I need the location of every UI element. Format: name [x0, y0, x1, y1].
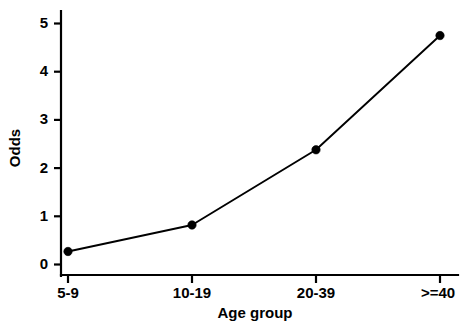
x-tick-label-5-9: 5-9 — [57, 284, 79, 301]
y-tick-label-0: 0 — [40, 255, 48, 272]
x-axis-title: Age group — [218, 304, 293, 321]
y-axis-title: Odds — [6, 129, 23, 167]
y-tick-label-4: 4 — [40, 62, 49, 79]
y-tick-label-2: 2 — [40, 159, 48, 176]
chart-canvas: 5 4 3 2 1 0 5-9 10-19 20-39 >=40 Age gro… — [0, 0, 465, 326]
y-tick-label-5: 5 — [40, 14, 48, 31]
odds-by-age-group-chart: 5 4 3 2 1 0 5-9 10-19 20-39 >=40 Age gro… — [0, 0, 465, 326]
x-tick-label-20-39: 20-39 — [297, 284, 335, 301]
data-point-10-19[interactable] — [188, 221, 196, 229]
y-tick-label-1: 1 — [40, 207, 48, 224]
x-tick-label-10-19: 10-19 — [173, 284, 211, 301]
x-tick-label-40plus: >=40 — [421, 284, 455, 301]
odds-series — [64, 31, 444, 255]
y-tick-label-3: 3 — [40, 110, 48, 127]
data-point-20-39[interactable] — [312, 146, 320, 154]
data-point-5-9[interactable] — [64, 247, 72, 255]
data-point->=40[interactable] — [436, 31, 444, 39]
series-line — [68, 36, 440, 252]
